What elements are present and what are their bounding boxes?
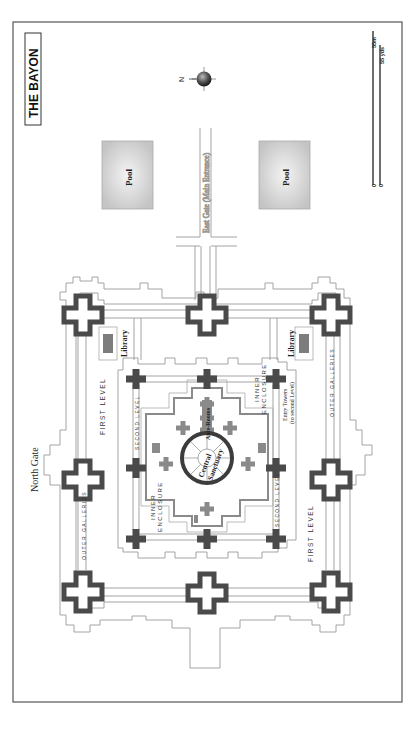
- pool-west: Pool: [102, 141, 153, 209]
- inner-enclosure-label: ENCLOSURE: [261, 363, 267, 414]
- second-level-label: SECOND LEVEL: [275, 472, 280, 527]
- ante-rooms-label: Ante-Rooms: [205, 407, 211, 440]
- north-gate-label: North Gate: [29, 447, 40, 492]
- map-title: THE BAYON: [25, 33, 41, 125]
- bayon-map: THE BAYON N 55m 55 yds 0 0 Pool Pool: [0, 0, 417, 729]
- inner-enclosure-label: INNER: [254, 376, 260, 402]
- outer-galleries-label: OUTER GALLERIES: [81, 491, 87, 560]
- title-text: THE BAYON: [27, 48, 41, 118]
- library-label: Library: [120, 330, 129, 357]
- east-gate-label: East Gate (Main Entrance): [202, 152, 211, 233]
- inner-enclosure-label: ENCLOSURE: [157, 481, 163, 532]
- inner-enclosure-label: INNER: [150, 494, 156, 520]
- entry-towers-label: Entry Towers: [282, 388, 288, 421]
- second-level-label: SECOND LEVEL: [135, 395, 140, 450]
- library-north: Library: [99, 327, 129, 360]
- first-level-label: FIRST LEVEL: [307, 505, 314, 562]
- outer-galleries-label: OUTER GALLERIES: [329, 348, 335, 417]
- scale-imperial-max: 55 yds: [379, 47, 385, 64]
- pool-east: Pool: [259, 141, 310, 209]
- scale-metric-max: 55m: [371, 37, 377, 48]
- library-south: Library: [287, 327, 313, 360]
- library-label: Library: [287, 330, 296, 357]
- pool-label: Pool: [124, 169, 134, 186]
- entry-towers-label: (to second Level): [289, 382, 296, 424]
- compass-rose-icon: N: [178, 67, 216, 91]
- north-label: N: [178, 77, 185, 82]
- pool-label: Pool: [281, 169, 291, 186]
- east-gate-causeway: East Gate (Main Entrance): [176, 128, 237, 300]
- scale-bar: 55m 55 yds 0 0: [371, 31, 385, 187]
- scale-metric-min: 0: [371, 184, 377, 187]
- scale-imperial-min: 0: [378, 184, 384, 187]
- first-level-label: FIRST LEVEL: [99, 378, 106, 435]
